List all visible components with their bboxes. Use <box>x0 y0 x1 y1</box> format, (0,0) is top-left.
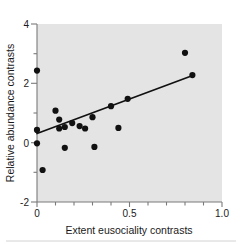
data-point <box>82 125 88 131</box>
y-tick-label-4: 4 <box>23 19 29 30</box>
data-point <box>62 145 68 151</box>
figure-container: 4 2 0 -2 0 0.5 1.0 Extent eusociality co… <box>0 0 242 244</box>
data-point <box>189 72 195 78</box>
data-point <box>108 103 114 109</box>
data-point <box>115 125 121 131</box>
data-point <box>34 127 40 133</box>
data-point <box>40 167 46 173</box>
data-point <box>34 140 40 146</box>
plot-area-background <box>37 24 222 202</box>
x-axis-title: Extent eusociality contrasts <box>65 224 192 236</box>
data-point <box>125 96 131 102</box>
data-point <box>91 144 97 150</box>
y-tick-label-0: 0 <box>23 138 29 149</box>
scatter-plot: 4 2 0 -2 0 0.5 1.0 Extent eusociality co… <box>0 0 242 244</box>
x-tick-label-0: 0 <box>34 208 40 219</box>
y-tick-label-2: 2 <box>23 78 29 89</box>
data-point <box>182 50 188 56</box>
chart-svg: 4 2 0 -2 0 0.5 1.0 Extent eusociality co… <box>0 0 242 244</box>
data-point <box>69 120 75 126</box>
data-point <box>62 124 68 130</box>
data-point <box>34 68 40 74</box>
data-point <box>89 114 95 120</box>
y-axis-title: Relative abundance contrasts <box>4 44 16 182</box>
x-tick-label-0p5: 0.5 <box>123 208 137 219</box>
y-tick-label-neg2: -2 <box>20 197 29 208</box>
data-point <box>56 125 62 131</box>
data-point <box>77 123 83 129</box>
data-point <box>56 117 62 123</box>
x-tick-label-1p0: 1.0 <box>215 208 229 219</box>
data-point <box>52 108 58 114</box>
